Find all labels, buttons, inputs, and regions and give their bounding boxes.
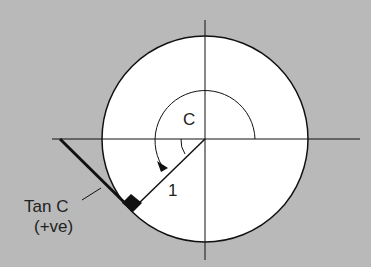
tan-sign-label: (+ve) <box>34 217 73 236</box>
angle-label: C <box>183 110 195 129</box>
radius-label: 1 <box>168 181 177 200</box>
unit-circle-diagram: C 1 Tan C (+ve) <box>0 0 371 267</box>
tan-label: Tan C <box>24 197 68 216</box>
